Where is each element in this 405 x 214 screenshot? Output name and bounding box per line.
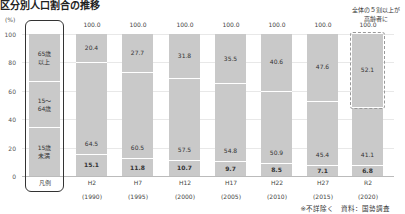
- bar-h7: 27.760.511.8: [122, 34, 153, 176]
- y-tick-label: 60: [0, 87, 16, 94]
- x-axis-label: H2(1990): [72, 178, 112, 202]
- x-year-label: (2005): [211, 192, 251, 202]
- segment-15-64: 57.5: [169, 79, 200, 161]
- bar-h27: 47.645.47.1: [307, 34, 338, 176]
- x-year-label: (2010): [257, 192, 297, 202]
- segment-65-plus: 20.4: [76, 34, 107, 63]
- segment-65-plus: 35.5: [215, 34, 246, 84]
- segment-under-15: 9.7: [215, 162, 246, 176]
- y-axis-unit: (%): [5, 16, 15, 23]
- segment-15-64: 64.5: [76, 63, 107, 155]
- x-era-label: H17: [211, 178, 251, 188]
- x-era-label: H2: [72, 178, 112, 188]
- segment-15-64: 45.4: [307, 102, 338, 166]
- bar-h17: 35.554.89.7: [215, 34, 246, 176]
- x-axis-label: R2(2020): [348, 178, 388, 202]
- segment-under-15: 8.5: [261, 164, 292, 176]
- bar-total-label: 100.0: [257, 21, 297, 28]
- y-tick-label: 20: [0, 144, 16, 151]
- segment-65-plus: 47.6: [307, 34, 338, 102]
- bar-total-label: 100.0: [348, 21, 388, 28]
- chart-title: 区分別人口割合の推移: [0, 0, 100, 12]
- legend-65-plus: 65歳 以上: [29, 34, 60, 82]
- segment-under-15: 7.1: [307, 166, 338, 176]
- x-axis-label: H7(1995): [118, 178, 158, 202]
- segment-under-15: 15.1: [76, 155, 107, 176]
- legend-15-64: 15～ 64歳: [29, 82, 60, 128]
- x-year-label: (1995): [118, 192, 158, 202]
- x-year-label: (2015): [303, 192, 343, 202]
- y-tick-label: 0: [0, 173, 16, 180]
- x-axis-line: [22, 176, 394, 177]
- x-axis-label: H12(2000): [165, 178, 205, 202]
- bar-total-label: 100.0: [303, 21, 343, 28]
- x-axis-label: H17(2005): [211, 178, 251, 202]
- segment-65-plus: 27.7: [122, 34, 153, 73]
- x-era-label: H7: [118, 178, 158, 188]
- segment-65-plus: 31.8: [169, 34, 200, 79]
- bar-total-label: 100.0: [72, 21, 112, 28]
- x-era-label: H27: [303, 178, 343, 188]
- x-year-label: (2020): [348, 192, 388, 202]
- x-year-label: (2000): [165, 192, 205, 202]
- bar-h22: 40.650.98.5: [261, 34, 292, 176]
- source-note: ※不詳除く 資料：国勢調査: [301, 203, 390, 213]
- segment-15-64: 60.5: [122, 73, 153, 159]
- x-axis-label: H27(2015): [303, 178, 343, 202]
- y-tick-label: 100: [0, 31, 16, 38]
- segment-under-15: 11.8: [122, 159, 153, 176]
- y-tick-label: 40: [0, 116, 16, 123]
- y-tick-label: 80: [0, 59, 16, 66]
- x-axis-label: H22(2010): [257, 178, 297, 202]
- highlight-box-r2-65-plus: [350, 32, 385, 109]
- segment-under-15: 10.7: [169, 161, 200, 176]
- bar-h2: 20.464.515.1: [76, 34, 107, 176]
- legend-bar: 65歳 以上 15～ 64歳 15歳 未満: [29, 34, 60, 176]
- segment-15-64: 41.1: [352, 108, 383, 166]
- bar-total-label: 100.0: [211, 21, 251, 28]
- x-era-label: R2: [348, 178, 388, 188]
- bar-h12: 31.857.510.7: [169, 34, 200, 176]
- bar-total-label: 100.0: [165, 21, 205, 28]
- segment-65-plus: 40.6: [261, 34, 292, 92]
- bar-total-label: 100.0: [118, 21, 158, 28]
- x-era-label: H22: [257, 178, 297, 188]
- x-year-label: (1990): [72, 192, 112, 202]
- segment-under-15: 6.8: [352, 166, 383, 176]
- segment-15-64: 54.8: [215, 84, 246, 162]
- x-era-label: H12: [165, 178, 205, 188]
- segment-15-64: 50.9: [261, 92, 292, 164]
- legend-under-15: 15歳 未満: [29, 128, 60, 176]
- legend-label: 凡例: [25, 178, 65, 188]
